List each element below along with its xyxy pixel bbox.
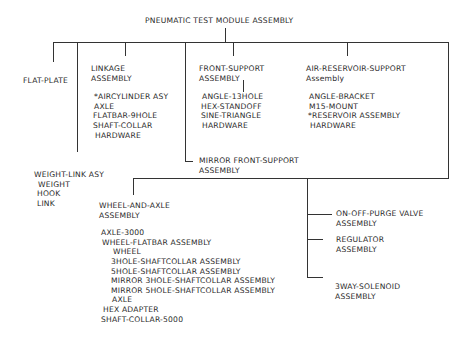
front-support-title-2: ASSEMBLY — [199, 74, 264, 84]
air-reservoir-item: ANGLE-BRACKET — [306, 92, 406, 102]
front-support-title-1: FRONT-SUPPORT — [199, 64, 264, 74]
wheel-axle-title-2: ASSEMBLY — [99, 211, 275, 221]
regulator-title-2: ASSEMBLY — [336, 245, 384, 255]
weight-link-title: WEIGHT-LINK ASY — [34, 170, 104, 180]
wheel-axle-item: AXLE-3000 — [99, 228, 275, 238]
node-air-reservoir-support: AIR-RESERVOIR-SUPPORT Assembly ANGLE-BRA… — [306, 64, 406, 131]
node-on-off-purge-valve: ON-OFF-PURGE VALVE ASSEMBLY — [336, 209, 423, 228]
purge-title-1: ON-OFF-PURGE VALVE — [336, 209, 423, 219]
air-reservoir-item: M15-MOUNT — [306, 102, 406, 112]
linkage-item: AXLE — [91, 102, 168, 112]
weight-link-drop — [77, 42, 78, 152]
air-reservoir-title-2: Assembly — [306, 74, 406, 84]
flat-plate-drop — [53, 42, 54, 62]
weight-link-item: LINK — [34, 199, 104, 209]
top-bus — [53, 42, 449, 43]
wheel-axle-sub-item: AXLE — [99, 295, 275, 305]
wheel-axle-sub-item: 5HOLE-SHAFTCOLLAR ASSEMBLY — [99, 267, 275, 277]
linkage-item: *AIRCYLINDER ASY — [91, 92, 168, 102]
right-edge — [448, 42, 449, 178]
wheel-axle-sub-item: 3HOLE-SHAFTCOLLAR ASSEMBLY — [99, 257, 275, 267]
node-wheel-and-axle: WHEEL-AND-AXLE ASSEMBLY AXLE-3000 WHEEL-… — [99, 201, 275, 324]
linkage-title-2: ASSEMBLY — [91, 74, 168, 84]
linkage-item: HARDWARE — [91, 131, 168, 141]
purge-title-2: ASSEMBLY — [336, 219, 423, 229]
air-reservoir-item: *RESERVOIR ASSEMBLY — [306, 111, 406, 121]
mirror-front-title-2: ASSEMBLY — [199, 166, 299, 176]
mirror-front-drop — [185, 42, 186, 161]
air-reservoir-drop — [347, 42, 348, 56]
node-regulator: REGULATOR ASSEMBLY — [336, 235, 384, 254]
node-flat-plate: FLAT-PLATE — [23, 76, 68, 86]
air-reservoir-item: HARDWARE — [306, 121, 406, 131]
solenoid-title-2: ASSEMBLY — [335, 292, 400, 302]
lower-bus — [133, 178, 449, 179]
node-front-support: FRONT-SUPPORT ASSEMBLY ANGLE-13HOLE HEX-… — [199, 64, 264, 131]
solenoid-title-1: 3WAY-SOLENOID — [335, 282, 400, 292]
linkage-drop — [125, 42, 126, 56]
node-weight-link: WEIGHT-LINK ASY WEIGHT HOOK LINK — [34, 170, 104, 208]
valve-trunk — [307, 178, 308, 277]
regulator-tick — [307, 239, 323, 240]
linkage-item: SHAFT-COLLAR — [91, 121, 168, 131]
node-linkage: LINKAGE ASSEMBLY *AIRCYLINDER ASY AXLE F… — [91, 64, 168, 140]
wheel-axle-item: SHAFT-COLLAR-5000 — [99, 315, 275, 325]
node-3way-solenoid: 3WAY-SOLENOID ASSEMBLY — [335, 282, 400, 301]
front-support-item: SINE-TRIANGLE — [199, 111, 264, 121]
weight-link-item: WEIGHT — [34, 180, 104, 190]
air-reservoir-title-1: AIR-RESERVOIR-SUPPORT — [306, 64, 406, 74]
solenoid-tick — [307, 277, 323, 278]
mirror-front-tick — [185, 161, 193, 162]
regulator-title-1: REGULATOR — [336, 235, 384, 245]
wheel-axle-sub-item: MIRROR 5HOLE-SHAFTCOLLAR ASSEMBLY — [99, 286, 275, 296]
title-connector — [225, 28, 226, 42]
front-support-item: ANGLE-13HOLE — [199, 92, 264, 102]
wheel-axle-item: WHEEL-FLATBAR ASSEMBLY — [99, 238, 275, 248]
weight-link-item: HOOK — [34, 189, 104, 199]
front-support-item: HEX-STANDOFF — [199, 102, 264, 112]
front-support-item: HARDWARE — [199, 121, 264, 131]
wheel-axle-title-1: WHEEL-AND-AXLE — [99, 201, 275, 211]
wheel-axle-item: HEX ADAPTER — [99, 305, 275, 315]
wheel-axle-sub-item: MIRROR 3HOLE-SHAFTCOLLAR ASSEMBLY — [99, 276, 275, 286]
node-mirror-front-support: MIRROR FRONT-SUPPORT ASSEMBLY — [199, 156, 299, 175]
linkage-item: FLATBAR-9HOLE — [91, 111, 168, 121]
wheel-axle-sub-item: WHEEL — [99, 247, 275, 257]
diagram-title: PNEUMATIC TEST MODULE ASSEMBLY — [145, 16, 293, 26]
wheel-axle-drop — [133, 178, 134, 195]
mirror-front-title-1: MIRROR FRONT-SUPPORT — [199, 156, 299, 166]
front-support-drop — [233, 42, 234, 56]
purge-tick — [307, 214, 332, 215]
linkage-title-1: LINKAGE — [91, 64, 168, 74]
